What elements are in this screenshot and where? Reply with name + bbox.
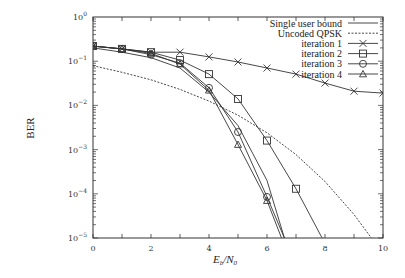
x-tick-label: 6 <box>264 244 269 253</box>
x-tick-label: 10 <box>378 244 388 253</box>
y-tick-label: 10−1 <box>68 54 87 66</box>
x-axis-title-n: /N <box>222 253 234 265</box>
x-axis-title-sub-0: 0 <box>234 259 238 267</box>
y-tick-label: 10−3 <box>68 143 87 155</box>
legend-item: iteration 4 <box>301 69 378 80</box>
series-uncoded-qpsk <box>93 66 371 238</box>
legend: Single user boundUncoded QPSKiteration 1… <box>270 18 378 80</box>
legend-label: iteration 4 <box>301 69 342 80</box>
x-tick-label: 4 <box>206 244 211 253</box>
x-axis-title: Eb/N0 <box>212 253 238 267</box>
y-tick-label: 100 <box>73 10 87 22</box>
y-tick-label: 10−5 <box>68 231 87 243</box>
y-tick-label: 10−2 <box>68 98 87 110</box>
y-axis-title: BER <box>24 117 36 139</box>
x-tick-label: 0 <box>90 244 95 253</box>
y-tick-label: 10−4 <box>68 187 87 199</box>
ber-chart: 024681010010−110−210−310−410−5 Single us… <box>0 0 405 278</box>
x-tick-label: 8 <box>322 244 327 253</box>
series-single-user-bound <box>93 48 284 238</box>
x-tick-label: 2 <box>148 244 153 253</box>
